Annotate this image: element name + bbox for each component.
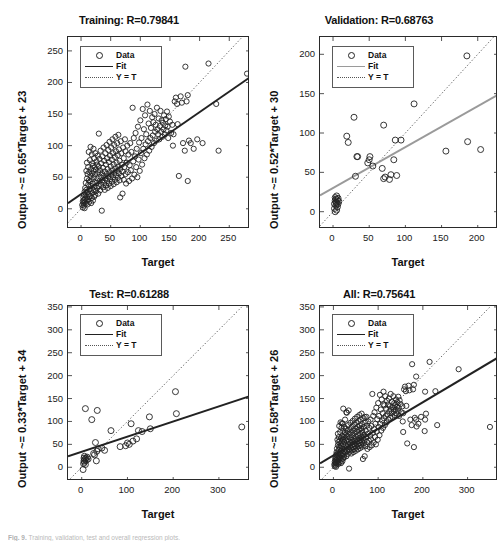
data-point	[394, 172, 400, 178]
data-point	[135, 124, 140, 129]
x-tick-label: 100	[369, 484, 385, 495]
legend-row-fit: Fit	[84, 60, 157, 71]
legend-label-identity: Y = T	[366, 340, 388, 350]
panel-title-test: Test: R=0.61288	[4, 288, 254, 300]
data-point	[206, 61, 211, 66]
x-tick-label: 0	[77, 232, 82, 243]
panel-validation: Validation: R=0.68763 Output ~= 0.52*Tar…	[256, 14, 502, 276]
data-point	[172, 389, 178, 395]
legend-row-fit: Fit	[84, 328, 157, 339]
data-point	[423, 417, 428, 422]
data-point	[144, 132, 149, 137]
fit-line	[68, 396, 249, 456]
legend-label-fit: Fit	[114, 329, 126, 339]
legend-validation: Data Fit Y = T	[332, 46, 414, 88]
data-point	[173, 411, 179, 417]
data-point	[487, 424, 492, 429]
y-axis-label-all: Output ~= 0.58*Target + 26	[268, 350, 280, 488]
data-point	[180, 141, 185, 146]
y-tick-label: 200	[283, 48, 315, 59]
panel-title-training: Training: R=0.79841	[4, 14, 254, 26]
dotted-line-icon	[336, 339, 366, 350]
data-point	[134, 146, 139, 151]
data-point	[370, 391, 375, 396]
data-point	[140, 106, 145, 111]
legend-label-fit: Fit	[366, 329, 378, 339]
panel-all: All: R=0.75641 Output ~= 0.58*Target + 2…	[256, 288, 502, 530]
data-point	[138, 118, 143, 123]
y-tick-label: 0	[283, 205, 315, 216]
data-point	[94, 407, 100, 413]
x-tick-label: 300	[210, 484, 226, 495]
data-point	[423, 389, 428, 394]
data-point	[137, 168, 142, 173]
data-point	[176, 173, 181, 178]
data-point	[185, 93, 190, 98]
data-point	[443, 148, 449, 154]
data-point	[140, 162, 145, 167]
data-point	[346, 466, 351, 471]
y-tick-label: 250	[31, 44, 63, 55]
data-point	[200, 141, 205, 146]
x-tick-label: 50	[104, 232, 115, 243]
data-point	[216, 148, 221, 153]
x-tick-label: 0	[78, 484, 83, 495]
x-tick-label: 50	[363, 232, 374, 243]
dotted-line-icon	[84, 339, 114, 350]
x-tick-label: 300	[459, 484, 475, 495]
data-point	[414, 374, 419, 379]
data-point	[433, 389, 438, 394]
data-point	[136, 157, 141, 162]
regression-figure: Training: R=0.79841 Output ~= 0.65*Targe…	[0, 0, 503, 530]
data-point	[175, 122, 180, 127]
x-tick-label: 0	[329, 232, 334, 243]
legend-training: Data Fit Y = T	[80, 46, 162, 88]
data-point	[351, 114, 357, 120]
data-point	[464, 53, 470, 59]
x-tick-label: 150	[433, 232, 449, 243]
legend-label-identity: Y = T	[114, 72, 136, 82]
circle-marker-icon	[336, 317, 366, 328]
data-point	[166, 135, 171, 140]
data-point	[411, 101, 417, 107]
data-point	[141, 127, 146, 132]
y-tick-label: 200	[283, 369, 315, 380]
legend-row-fit: Fit	[336, 60, 409, 71]
legend-label-identity: Y = T	[114, 340, 136, 350]
x-axis-label-training: Target	[67, 256, 249, 268]
y-tick-label: 200	[31, 76, 63, 87]
x-axis-label-test: Target	[67, 508, 249, 520]
panel-title-validation: Validation: R=0.68763	[256, 14, 502, 26]
legend-label-fit: Fit	[114, 61, 126, 71]
legend-label-data: Data	[366, 318, 386, 328]
data-point	[148, 125, 153, 130]
legend-row-data: Data	[336, 317, 409, 328]
y-tick-label: 300	[283, 323, 315, 334]
y-tick-label: 150	[283, 392, 315, 403]
data-point	[239, 424, 245, 430]
data-point	[422, 428, 427, 433]
data-point	[164, 109, 169, 114]
data-point	[96, 131, 101, 136]
data-point	[131, 159, 136, 164]
panel-test: Test: R=0.61288 Output ~= 0.33*Target + …	[4, 288, 254, 530]
legend-row-data: Data	[336, 49, 409, 60]
data-point	[131, 135, 136, 140]
data-point	[130, 105, 135, 110]
data-point	[82, 406, 88, 412]
data-point	[214, 101, 219, 106]
y-tick-label: 0	[31, 202, 63, 213]
data-point	[118, 195, 123, 200]
data-point	[158, 108, 163, 113]
x-tick-label: 100	[396, 232, 412, 243]
data-point	[456, 367, 461, 372]
y-tick-label: 250	[31, 346, 63, 357]
solid-line-icon	[84, 60, 114, 71]
data-point	[195, 137, 200, 142]
solid-line-icon	[84, 328, 114, 339]
figure-caption-text: Training, validation, test and overall r…	[28, 534, 180, 541]
data-point	[120, 191, 125, 196]
legend-row-data: Data	[84, 49, 157, 60]
data-point	[99, 208, 104, 213]
figure-caption-label: Fig. 9.	[8, 534, 27, 541]
